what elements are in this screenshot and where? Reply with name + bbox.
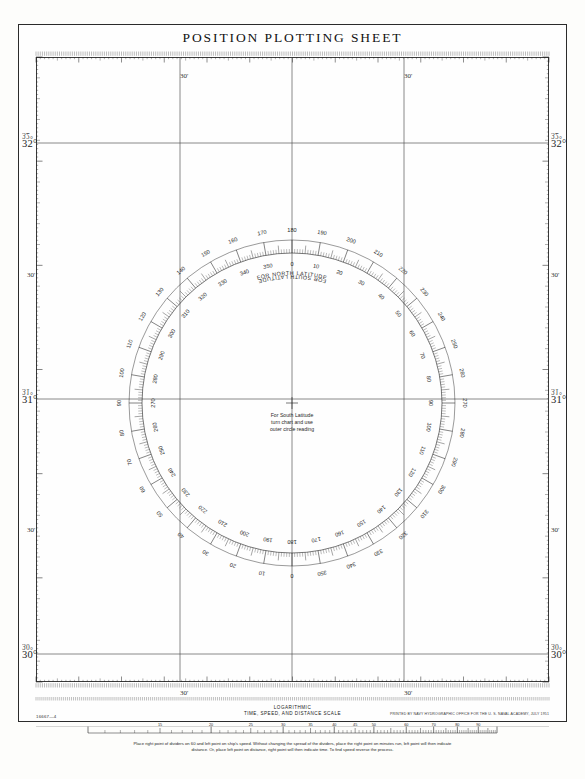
minute-tick-label: 30'	[551, 271, 559, 279]
latitude-label-value: 30°	[551, 650, 566, 660]
latitude-label: 31°31°	[551, 388, 566, 405]
latitude-label: 32°32°	[551, 132, 566, 149]
log-scale-tick-label: 30	[281, 723, 285, 727]
minute-tick-label: 30'	[404, 689, 412, 697]
south-latitude-note-line: outer circle reading	[232, 426, 352, 433]
latitude-label-mirrored: 31°	[22, 388, 37, 395]
sheet-number: 16667—4	[36, 714, 56, 719]
log-scale-instructions: Place right point of dividers on 60 and …	[60, 741, 525, 754]
latitude-label: 30°30°	[551, 643, 566, 660]
latitude-label-value: 30°	[22, 650, 37, 660]
log-scale-tick-label: 90	[476, 723, 480, 727]
latitude-label-value: 31°	[551, 395, 566, 405]
instructions-line-2: distance. Or, place left point on distan…	[60, 747, 525, 753]
latitude-label-mirrored: 30°	[22, 643, 37, 650]
south-latitude-note-line: For South Latitude	[232, 412, 352, 419]
latitude-label-value: 32°	[551, 139, 566, 149]
latitude-label-mirrored: 31°	[551, 388, 566, 395]
latitude-label: 30°30°	[22, 643, 37, 660]
south-latitude-note-line: turn chart and use	[232, 419, 352, 426]
latitude-label: 32°32°	[22, 132, 37, 149]
print-credit: PRINTED BY NAVY HYDROGRAPHIC OFFICE FOR …	[390, 712, 549, 716]
minute-tick-label: 30'	[551, 526, 559, 534]
log-scale-tick-label: 40	[332, 723, 336, 727]
log-scale-tick-label: 45	[353, 723, 357, 727]
page-title: POSITION PLOTTING SHEET	[0, 30, 585, 46]
minute-tick-label: 30'	[180, 689, 188, 697]
log-scale-tick-label: 15	[158, 723, 162, 727]
log-scale-tick-label: 35	[308, 723, 312, 727]
latitude-label-value: 31°	[22, 395, 37, 405]
south-latitude-note: For South Latitudeturn chart and useoute…	[232, 412, 352, 434]
minute-tick-label: 30'	[404, 72, 412, 80]
minute-tick-label: 30'	[27, 271, 35, 279]
log-scale-tick-label: 20	[209, 723, 213, 727]
plotting-sheet: POSITION PLOTTING SHEET 0102030405060708…	[0, 0, 585, 779]
log-scale-tick-label: 80	[455, 723, 459, 727]
log-scale-tick-label: 50	[372, 723, 376, 727]
latitude-label-mirrored: 30°	[551, 643, 566, 650]
minute-tick-label: 30'	[180, 72, 188, 80]
minute-tick-label: 30'	[27, 526, 35, 534]
latitude-label-value: 32°	[22, 139, 37, 149]
chart-neatline	[36, 57, 549, 682]
latitude-label-mirrored: 32°	[22, 132, 37, 139]
log-scale-tick-label: 70	[432, 723, 436, 727]
latitude-label-mirrored: 32°	[551, 132, 566, 139]
latitude-label: 31°31°	[22, 388, 37, 405]
log-scale-tick-label: 60	[404, 723, 408, 727]
log-scale-tick-label: 25	[249, 723, 253, 727]
